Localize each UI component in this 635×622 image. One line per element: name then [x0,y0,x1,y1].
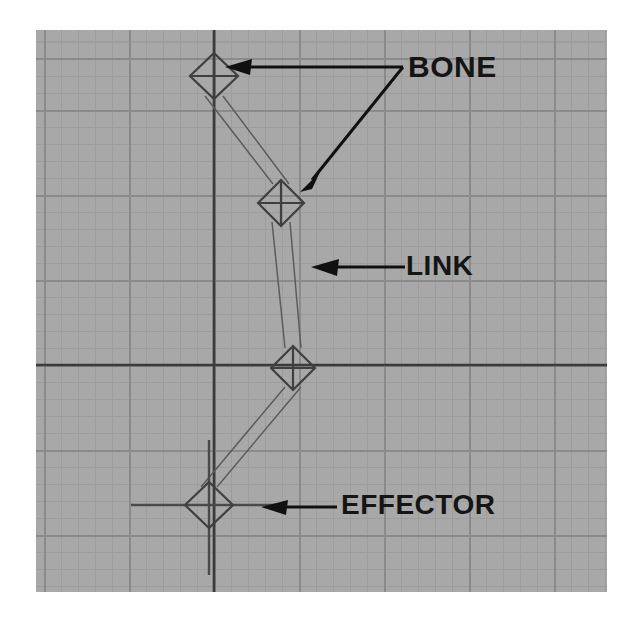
annotation-label-link: LINK [406,250,473,282]
annotation-label-effector: EFFECTOR [341,489,495,521]
figure-root: BONE LINK EFFECTOR [0,0,635,622]
leader-line-link [311,259,405,276]
leader-line-effector [261,500,337,515]
joint-third-bone[interactable] [271,346,315,390]
joint-root-bone[interactable] [190,53,238,99]
annotation-label-bone: BONE [408,50,497,84]
diagram-vector-layer [0,0,635,622]
leader-line-bone-lower [300,67,403,192]
link-second-to-third [272,222,301,348]
link-third-to-effector [201,387,301,487]
link-root-to-second [205,96,289,184]
leader-line-bone-upper [225,59,403,75]
joint-second-bone[interactable] [258,180,304,226]
